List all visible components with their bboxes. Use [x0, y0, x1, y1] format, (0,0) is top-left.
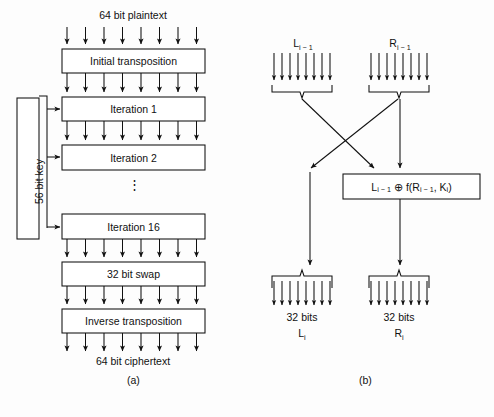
- bus-iter1-to-iter2: [67, 121, 197, 140]
- box-iteration-16-label[interactable]: Iteration 16: [62, 214, 205, 239]
- des-figure: 64 bit plaintext Initial transposition I…: [0, 0, 494, 417]
- bus-plaintext-to-initial: [67, 27, 197, 44]
- box-initial-transposition-label[interactable]: Initial transposition: [62, 49, 205, 73]
- ciphertext-label: 64 bit ciphertext: [96, 356, 170, 367]
- label-output-left-symbol-base: L: [298, 327, 304, 339]
- panel-a-vectors: [17, 27, 205, 351]
- caption-panel-b: (b): [359, 375, 372, 386]
- caption-panel-a: (a): [127, 375, 140, 386]
- box-iteration-1-label[interactable]: Iteration 1: [62, 97, 205, 121]
- bus-iter16-to-swap: [67, 239, 197, 257]
- bus-inverse-to-ciphertext: [67, 333, 197, 351]
- key-box-label[interactable]: 56 bit key: [33, 159, 45, 204]
- xor-func-mid: , K: [434, 181, 447, 193]
- box-xor-function-label[interactable]: Li − 1⊕f(Ri − 1, Ki): [343, 174, 480, 199]
- box-32-bit-swap-label[interactable]: 32 bit swap: [62, 262, 205, 286]
- bus-right-output: [371, 281, 427, 305]
- bus-left-input: [274, 53, 330, 80]
- bus-swap-to-inverse: [67, 286, 197, 304]
- label-L-i-minus-1-base: L: [293, 37, 299, 49]
- label-R-i-minus-1: Ri − 1: [389, 38, 410, 49]
- brace-left-output: [272, 270, 332, 288]
- label-R-i-minus-1-base: R: [389, 37, 397, 49]
- vertical-ellipsis: ⋮: [128, 178, 141, 191]
- xor-func-end: ): [448, 181, 452, 193]
- label-output-right-symbol-sub: i: [402, 333, 404, 342]
- xor-operator: ⊕: [391, 181, 406, 193]
- line-L-to-xor: [302, 99, 374, 168]
- label-output-left-symbol: Li: [298, 328, 305, 339]
- bus-left-output: [274, 281, 330, 305]
- box-inverse-transposition-label[interactable]: Inverse transposition: [62, 309, 205, 333]
- xor-left-sub: i − 1: [377, 185, 391, 194]
- xor-func-sub2: i: [447, 185, 449, 194]
- brace-right-output: [369, 270, 429, 288]
- label-output-left-bits: 32 bits: [287, 312, 318, 323]
- plaintext-label: 64 bit plaintext: [99, 10, 167, 21]
- brace-left-input: [272, 85, 332, 98]
- line-R-to-Li: [311, 99, 398, 168]
- box-iteration-2-label[interactable]: Iteration 2: [62, 145, 205, 170]
- xor-func: f(R: [406, 181, 420, 193]
- label-output-right-symbol: Ri: [394, 328, 403, 339]
- brace-right-input: [369, 85, 429, 98]
- label-output-right-bits: 32 bits: [384, 312, 415, 323]
- bus-initial-to-iter1: [67, 73, 197, 92]
- bus-right-input: [371, 53, 427, 80]
- label-L-i-minus-1-sub: i − 1: [299, 43, 313, 52]
- label-L-i-minus-1: Li − 1: [293, 38, 313, 49]
- label-R-i-minus-1-sub: i − 1: [397, 43, 411, 52]
- key-taps: [47, 109, 60, 227]
- xor-func-sub: i − 1: [420, 185, 434, 194]
- label-output-right-symbol-base: R: [394, 327, 402, 339]
